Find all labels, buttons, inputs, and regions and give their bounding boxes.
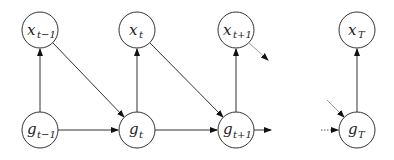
edge-x_tm1-g_t (53, 43, 124, 117)
node-label-base: x (27, 21, 36, 39)
graphical-model-diagram: x t−1 x t x t+1 x T g t−1 g t g t+1 g T (0, 0, 394, 160)
node-x_tm1: x t−1 (22, 12, 58, 48)
node-label-base: x (348, 21, 357, 39)
edge-x_t-g_tp1 (150, 43, 223, 117)
node-label-base: g (223, 120, 233, 138)
node-g_tm1: g t−1 (22, 112, 58, 148)
node-label-base: x (223, 21, 232, 39)
node-g_t: g t (119, 112, 155, 148)
node-x_T: x T (339, 12, 375, 48)
node-label-sub: t+1 (233, 29, 252, 40)
node-g_tp1: g t+1 (218, 112, 254, 148)
node-label-base: g (348, 120, 358, 138)
node-label-sub: t−1 (37, 129, 56, 140)
edge-continuation-diag-g_T (327, 100, 344, 117)
node-label-base: g (129, 120, 139, 138)
node-label-base: g (27, 120, 37, 138)
node-label-base: x (129, 21, 138, 39)
edge-x_tp1-continuation (249, 43, 268, 60)
node-label-sub: t−1 (37, 29, 56, 40)
node-label-sub: t+1 (233, 129, 252, 140)
node-g_T: g T (339, 112, 375, 148)
node-x_t: x t (119, 12, 155, 48)
node-x_tp1: x t+1 (218, 12, 254, 48)
